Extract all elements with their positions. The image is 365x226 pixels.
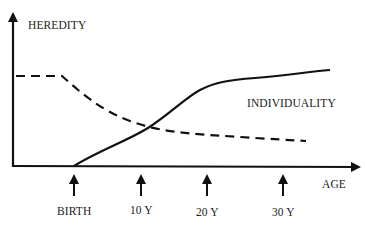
marker-label-20y: 20 Y [196,206,219,218]
marker-label-10y: 10 Y [130,204,153,216]
marker-label-30y: 30 Y [272,206,295,218]
individuality-curve [74,70,330,166]
x-axis-label: AGE [322,178,346,190]
diagram-canvas [0,0,365,226]
y-axis-label: HEREDITY [28,19,86,31]
individuality-label: INDIVIDUALITY [247,97,336,109]
x-axis [12,166,359,167]
marker-label-birth: BIRTH [57,205,91,217]
